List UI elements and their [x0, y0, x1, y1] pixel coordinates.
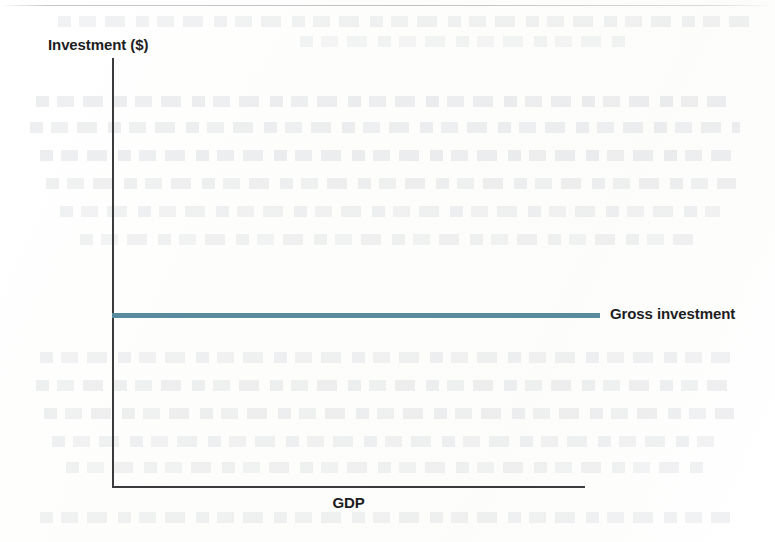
bleed-through-text	[60, 206, 720, 217]
bleed-through-text	[36, 96, 726, 107]
bleed-through-text	[52, 436, 722, 447]
bleed-through-text	[40, 150, 740, 161]
bleed-through-text	[44, 408, 734, 419]
bleed-through-text	[80, 234, 700, 245]
x-axis-title: GDP	[112, 494, 585, 511]
y-axis-line	[112, 58, 114, 488]
economics-line-chart: Investment ($) Gross investment GDP	[0, 0, 775, 542]
bleed-through-text	[40, 512, 730, 523]
bleed-through-text	[58, 16, 758, 27]
bleed-through-text	[300, 36, 630, 47]
bleed-through-text	[66, 462, 706, 473]
gross-investment-line	[112, 313, 600, 318]
bleed-through-text	[36, 380, 736, 391]
paper-background	[0, 0, 775, 542]
bleed-through-text	[46, 178, 736, 189]
y-axis-title: Investment ($)	[48, 36, 148, 53]
x-axis-line	[112, 486, 585, 488]
bleed-through-text	[30, 122, 740, 133]
scan-artifact-line	[0, 5, 775, 6]
bleed-through-text	[40, 352, 730, 363]
gross-investment-label: Gross investment	[610, 305, 735, 322]
